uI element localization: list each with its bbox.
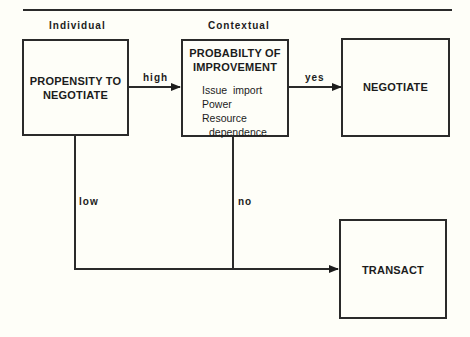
node-title-line2: NEGOTIATE bbox=[24, 88, 127, 102]
column-header-contextual: Contextual bbox=[208, 20, 270, 31]
factor-dependence: dependence bbox=[202, 125, 287, 139]
factor-power: Power bbox=[202, 97, 287, 111]
edge-label-high: high bbox=[143, 72, 168, 83]
node-transact: TRANSACT bbox=[339, 219, 447, 319]
factor-resource: Resource bbox=[202, 111, 287, 125]
edge-label-low: low bbox=[79, 196, 99, 207]
factor-list: Issue import Power Resource dependence bbox=[202, 83, 287, 139]
node-title-line1: PROPENSITY TO bbox=[24, 74, 127, 88]
node-title: TRANSACT bbox=[341, 263, 445, 277]
edge-label-yes: yes bbox=[305, 72, 325, 83]
node-propensity-to-negotiate: PROPENSITY TO NEGOTIATE bbox=[22, 39, 129, 136]
node-title-line1: PROBABILTY OF bbox=[183, 46, 287, 60]
column-header-individual: Individual bbox=[49, 20, 106, 31]
node-negotiate: NEGOTIATE bbox=[341, 38, 450, 137]
node-title-line2: IMPROVEMENT bbox=[183, 60, 287, 74]
node-probability-of-improvement: PROBABILTY OF IMPROVEMENT Issue import P… bbox=[181, 39, 289, 137]
edge-label-no: no bbox=[238, 196, 252, 207]
node-title: NEGOTIATE bbox=[343, 80, 448, 94]
factor-issue-import: Issue import bbox=[202, 83, 287, 97]
